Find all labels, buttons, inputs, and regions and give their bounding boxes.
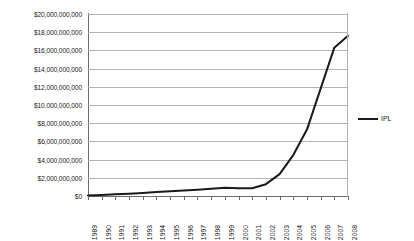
y-tick-label: $0 (75, 193, 82, 200)
x-tick-label: 2006 (324, 225, 331, 240)
x-tick (293, 196, 294, 200)
series-line-ipl (88, 14, 348, 196)
x-tick-label: 1995 (173, 225, 180, 240)
x-tick (184, 196, 185, 200)
x-tick-label: 2001 (255, 225, 262, 240)
legend-swatch-ipl (358, 118, 378, 120)
y-tick-label: $20,000,000,000 (34, 11, 82, 18)
y-tick-label: $8,000,000,000 (38, 120, 82, 127)
y-tick-label: $6,000,000,000 (38, 138, 82, 145)
y-tick-label: $16,000,000,000 (34, 47, 82, 54)
x-tick-label: 1990 (105, 225, 112, 240)
x-tick-label: 1999 (228, 225, 235, 240)
y-tick-label: $2,000,000,000 (38, 174, 82, 181)
y-tick-label: $4,000,000,000 (38, 156, 82, 163)
plot-right-border (347, 13, 348, 197)
x-tick (266, 196, 267, 200)
y-tick-label: $14,000,000,000 (34, 65, 82, 72)
x-tick-label: 2005 (310, 225, 317, 240)
x-tick (211, 196, 212, 200)
x-tick-label: 2002 (269, 225, 276, 240)
x-tick-label: 2000 (242, 225, 249, 240)
legend: IPL (358, 115, 392, 123)
x-tick-label: 2004 (296, 225, 303, 240)
x-tick (280, 196, 281, 200)
x-tick (88, 196, 89, 200)
series-path-ipl (88, 36, 348, 196)
x-tick (307, 196, 308, 200)
y-tick-label: $10,000,000,000 (34, 102, 82, 109)
x-tick (170, 196, 171, 200)
x-axis: 1989199019911992199319941995199619971998… (88, 201, 348, 241)
plot-area (88, 14, 348, 196)
x-tick-label: 2008 (351, 225, 358, 240)
x-tick-label: 1991 (118, 225, 125, 240)
y-axis: $20,000,000,000$18,000,000,000$16,000,00… (0, 0, 86, 241)
x-tick (156, 196, 157, 200)
x-tick (197, 196, 198, 200)
x-tick (239, 196, 240, 200)
legend-label-ipl: IPL (381, 115, 392, 123)
x-tick (252, 196, 253, 200)
x-tick-label: 1992 (132, 225, 139, 240)
y-tick-label: $18,000,000,000 (34, 29, 82, 36)
chart-container: $20,000,000,000$18,000,000,000$16,000,00… (0, 0, 414, 241)
x-tick (225, 196, 226, 200)
x-tick-label: 1998 (214, 225, 221, 240)
x-tick-label: 2003 (283, 225, 290, 240)
x-tick-label: 1989 (91, 225, 98, 240)
x-tick-label: 1996 (187, 225, 194, 240)
x-tick-label: 1994 (159, 225, 166, 240)
x-tick (129, 196, 130, 200)
x-tick (348, 196, 349, 200)
x-tick (321, 196, 322, 200)
y-tick-label: $12,000,000,000 (34, 83, 82, 90)
x-tick (115, 196, 116, 200)
x-tick-label: 1997 (200, 225, 207, 240)
x-tick-label: 2007 (337, 225, 344, 240)
x-tick-label: 1993 (146, 225, 153, 240)
x-tick (143, 196, 144, 200)
x-tick (102, 196, 103, 200)
x-tick (334, 196, 335, 200)
